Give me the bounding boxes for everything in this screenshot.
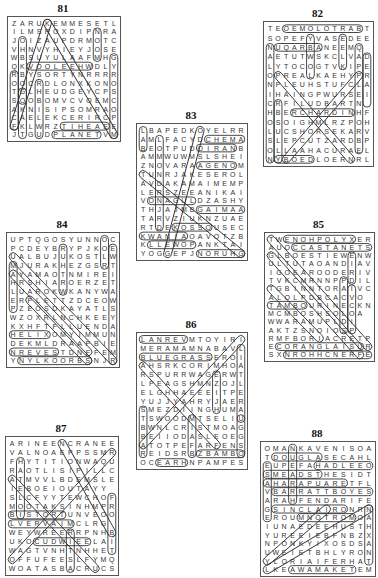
grid-letter: J [17,262,25,269]
grid-letter: U [35,20,43,27]
grid-letter: E [263,514,271,521]
grid-letter: C [332,335,340,342]
letter-grid: OMANKAVENISOATDOUGLASECAHLEUPEFAHADLEEOS… [260,441,376,577]
grid-letter: C [83,494,91,501]
grid-letter: A [180,233,188,240]
grid-letter: C [66,440,74,447]
grid-letter: R [348,549,356,556]
grid-letter: A [204,345,212,352]
grid-letter: A [299,318,307,325]
grid-letter: O [155,162,163,169]
grid-letter: Z [212,215,220,222]
grid-letter: N [163,233,171,240]
grid-letter: S [266,137,274,144]
grid-letter: R [139,371,147,378]
grid-letter: R [17,349,25,356]
grid-letter: Y [50,494,58,501]
grid-letter: L [18,28,26,35]
grid-letter: Y [188,136,196,143]
grid-letter: A [356,558,364,565]
grid-letter: N [283,351,291,358]
grid-letter: H [18,46,26,53]
grid-letter: R [52,71,60,78]
grid-letter: A [290,147,298,154]
grid-letter: O [100,236,108,243]
grid-letter: F [108,494,116,501]
grid-letter: N [229,145,237,152]
grid-letter: L [237,345,245,352]
grid-letter: V [41,476,49,483]
grid-letter: S [27,54,35,61]
grid-letter: P [364,335,372,342]
grid-letter: V [314,35,322,42]
grid-letter: Y [109,314,117,321]
grid-letter: E [34,245,42,252]
grid-letter: H [356,454,364,461]
grid-letter: O [229,162,237,169]
grid-letter: Y [340,236,348,243]
grid-letter: N [155,197,163,204]
grid-letter: A [314,109,322,116]
grid-letter: I [188,424,196,431]
grid-letter: I [60,46,68,53]
grid-letter: B [147,127,155,134]
grid-letter: O [100,245,108,252]
grid-letter: O [52,28,60,35]
grid-letter: K [331,566,339,573]
grid-letter: I [180,215,188,222]
grid-letter: F [16,556,24,563]
letter-grid: ZARUKEMMESETLILMSROXDIPNRAJOIZAUPDRMOTCV… [7,16,121,142]
grid-letter: O [100,297,108,304]
grid-letter: R [92,271,100,278]
grid-letter: L [266,63,274,70]
grid-letter: K [139,233,147,240]
grid-letter: T [237,371,245,378]
grid-letter: A [188,354,196,361]
grid-letter: S [84,357,92,364]
grid-letter: U [155,354,163,361]
grid-letter: R [339,497,347,504]
grid-letter: X [275,351,283,358]
grid-letter: A [163,345,171,352]
grid-letter: C [347,81,355,88]
grid-letter: I [348,471,356,478]
grid-letter: D [196,197,204,204]
grid-letter: R [41,529,49,536]
grid-letter: N [331,445,339,452]
grid-letter: S [322,454,330,461]
grid-letter: H [322,549,330,556]
grid-letter: S [365,488,373,495]
grid-letter: O [280,540,288,547]
grid-letter: E [331,44,339,51]
grid-letter: Q [282,44,290,51]
grid-letter: L [275,260,283,267]
grid-letter: P [290,137,298,144]
grid-letter: H [101,54,109,61]
grid-letter: A [196,189,204,196]
grid-letter: I [324,302,332,309]
grid-letter: I [291,285,299,292]
grid-letter: U [237,415,245,422]
grid-letter: M [147,153,155,160]
grid-letter: B [274,109,282,116]
grid-letter: R [110,71,118,78]
grid-letter: E [322,523,330,530]
grid-letter: E [229,433,237,440]
grid-letter: I [339,109,347,116]
grid-letter: W [147,233,155,240]
grid-letter: I [237,189,245,196]
grid-letter: E [108,440,116,447]
grid-letter: T [363,25,371,32]
grid-letter: W [172,241,180,248]
grid-letter: W [9,314,17,321]
grid-letter: K [18,123,26,130]
grid-letter: K [172,362,180,369]
grid-letter: Y [339,549,347,556]
grid-letter: D [307,294,315,301]
grid-letter: O [51,236,59,243]
grid-letter: L [365,480,373,487]
grid-letter: O [188,362,196,369]
grid-letter: R [339,137,347,144]
grid-letter: F [51,323,59,330]
grid-letter: I [27,37,35,44]
